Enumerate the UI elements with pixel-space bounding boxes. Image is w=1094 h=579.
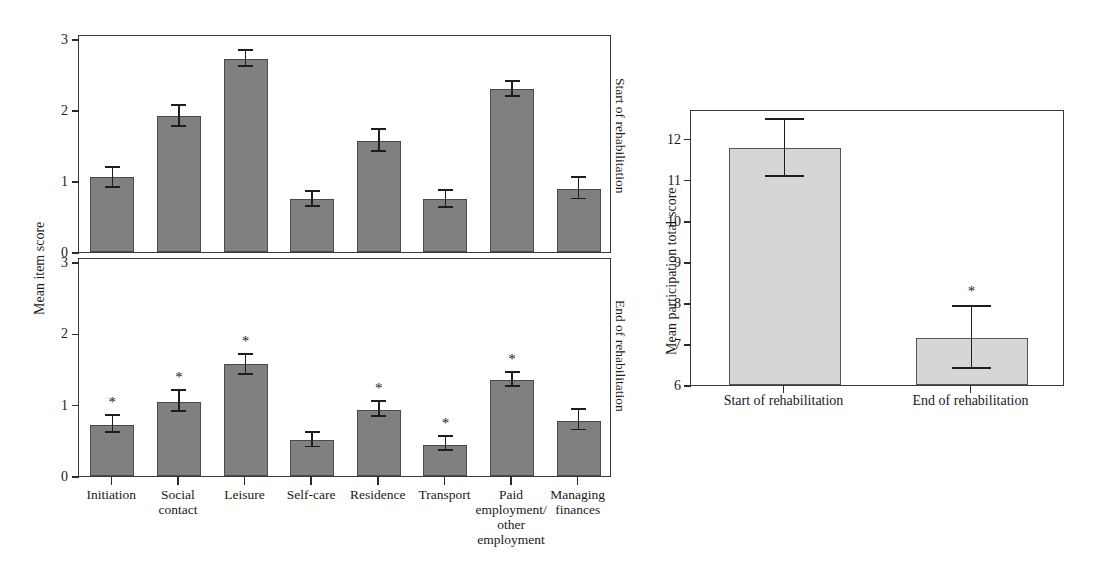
y-tick-2 [72,110,79,112]
y-tick-label-0: 0 [42,470,68,484]
bar-3 [224,364,268,476]
error-cap-top-2 [171,389,186,391]
bar-7 [490,89,534,252]
significance-marker-1: * [105,395,119,410]
error-cap-bottom-4 [305,446,320,448]
error-cap-top-6 [438,189,453,191]
error-bar-2 [971,307,973,369]
error-cap-bottom-1 [105,431,120,433]
y-tick-1 [72,405,79,407]
bar-2 [157,116,201,252]
y-tick-8 [684,303,691,305]
y-tick-0 [72,252,79,254]
bar-5 [357,141,401,252]
error-cap-top-7 [505,371,520,373]
x-axis-label-8: Managingfinances [538,487,617,517]
y-tick-label-1: 1 [42,399,68,413]
error-cap-top-3 [238,353,253,355]
error-cap-bottom-4 [305,205,320,207]
x-tick-1 [111,477,112,485]
error-cap-top-3 [238,49,253,51]
error-cap-top-1 [105,414,120,416]
error-cap-top-4 [305,431,320,433]
significance-marker-2: * [172,370,186,385]
right-x-tick-1 [783,386,784,393]
y-tick-label-8: 8 [655,297,681,311]
x-tick-3 [244,477,245,485]
error-cap-top-7 [505,80,520,82]
significance-marker-5: * [372,381,386,396]
y-tick-0 [72,476,79,478]
error-cap-top-5 [371,400,386,402]
error-cap-top-4 [305,190,320,192]
y-tick-label-2: 2 [42,104,68,118]
error-cap-bottom-2 [952,367,990,369]
error-bar-2 [178,106,180,127]
error-cap-bottom-1 [105,186,120,188]
error-cap-bottom-8 [571,429,586,431]
error-cap-bottom-7 [505,95,520,97]
error-cap-bottom-5 [371,150,386,152]
panel-end-of-rehabilitation: ****** [78,258,611,477]
y-tick-label-7: 7 [655,338,681,352]
error-cap-bottom-8 [571,198,586,200]
x-tick-8 [577,477,578,485]
error-cap-top-1 [765,118,803,120]
y-tick-3 [72,262,79,264]
y-tick-11 [684,180,691,182]
y-tick-label-3: 3 [42,33,68,47]
right-y-axis-title: Mean participation total score [664,187,680,355]
bar-5 [357,410,401,476]
plot-area-start [79,36,610,252]
significance-marker-3: * [239,334,253,349]
error-cap-top-8 [571,408,586,410]
y-tick-2 [72,334,79,336]
error-cap-top-1 [105,166,120,168]
plot-area-end: ****** [79,259,610,476]
bar-3 [224,59,268,252]
x-axis-label-7-line-3: other [472,517,551,532]
error-cap-top-6 [438,435,453,437]
x-axis-label-7-line-4: employment [472,532,551,547]
x-tick-6 [444,477,445,485]
significance-marker-7: * [505,352,519,367]
y-tick-12 [684,139,691,141]
y-tick-label-11: 11 [655,174,681,188]
x-axis-label-2-line-2: contact [139,502,218,517]
y-tick-9 [684,262,691,264]
error-cap-bottom-2 [171,410,186,412]
error-bar-1 [784,120,786,177]
right-x-axis-label-1: Start of rehabilitation [690,393,877,409]
right-x-tick-2 [970,386,971,393]
x-axis-label-8-line-2: finances [538,502,617,517]
y-tick-3 [72,39,79,41]
panel-participation-total: * [690,110,1064,386]
x-tick-5 [377,477,378,485]
error-cap-top-5 [371,128,386,130]
y-tick-1 [72,181,79,183]
bar-7 [490,380,534,476]
error-cap-bottom-6 [438,449,453,451]
error-cap-bottom-1 [765,175,803,177]
x-tick-4 [310,477,311,485]
error-cap-bottom-7 [505,385,520,387]
y-tick-label-12: 12 [655,133,681,147]
bar-1 [90,177,134,252]
bar-1 [729,148,841,385]
error-cap-top-2 [952,305,990,307]
y-tick-label-3: 3 [42,256,68,270]
bar-4 [290,199,334,252]
figure-root: Mean item score 0123 Start of rehabilita… [0,0,1094,579]
error-cap-bottom-6 [438,206,453,208]
panel-start-of-rehabilitation [78,35,611,253]
x-tick-7 [510,477,511,485]
right-x-axis-label-2: End of rehabilitation [877,393,1064,409]
y-tick-label-2: 2 [42,327,68,341]
error-bar-8 [578,410,580,431]
error-cap-bottom-3 [238,65,253,67]
panel-start-side-label: Start of rehabilitation [612,78,628,193]
y-tick-label-10: 10 [655,215,681,229]
error-cap-top-8 [571,176,586,178]
y-tick-7 [684,344,691,346]
y-tick-10 [684,221,691,223]
